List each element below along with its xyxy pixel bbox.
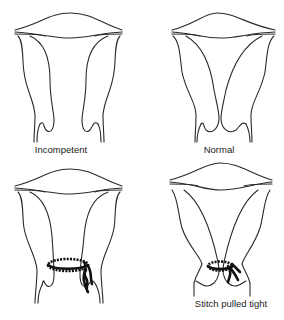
cervix-diagram: [0, 0, 284, 320]
label-normal: Normal: [204, 144, 235, 155]
panel-stitch-tight-drawing: [170, 163, 272, 296]
loose-stitch: [48, 259, 92, 292]
label-stitch-pulled-tight: Stitch pulled tight: [195, 298, 267, 309]
panel-normal-drawing: [172, 13, 275, 142]
panel-stitched-drawing: [15, 169, 122, 303]
label-incompetent: Incompetent: [35, 144, 87, 155]
panel-incompetent-drawing: [15, 13, 122, 142]
